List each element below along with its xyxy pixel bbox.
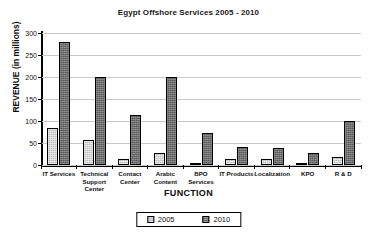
bar [166, 77, 177, 165]
bar [130, 115, 141, 165]
x-tick-text: KPO [301, 170, 314, 177]
legend-item[interactable]: 2010 [203, 215, 231, 224]
bar-groups [41, 33, 361, 165]
bar-group [290, 33, 326, 165]
x-tick-text: Contact Center [118, 170, 141, 185]
x-tick-mark [325, 165, 326, 169]
legend-item[interactable]: 2005 [147, 215, 175, 224]
x-tick-text: R & D [335, 170, 352, 177]
legend-label: 2010 [214, 215, 231, 224]
bar [154, 153, 165, 165]
x-tick-mark [361, 165, 362, 169]
y-tick-label: 300 [25, 30, 37, 37]
bar [308, 153, 319, 165]
y-tick-label: 0 [33, 162, 37, 169]
legend-swatch-icon [147, 216, 154, 223]
x-tick-mark [183, 165, 184, 169]
x-tick-text: Arabic Content [154, 170, 177, 185]
y-tick-label: 50 [29, 140, 37, 147]
legend-swatch-icon [203, 216, 210, 223]
bar-group [148, 33, 184, 165]
chart-title: Egypt Offshore Services 2005 - 2010 [0, 8, 377, 17]
y-tick-label: 200 [25, 74, 37, 81]
bar-group [326, 33, 362, 165]
x-tick-mark [112, 165, 113, 169]
bar-group [254, 33, 290, 165]
x-axis-title: FUNCTION [0, 188, 377, 198]
y-tick-label: 150 [25, 96, 37, 103]
bar-group [183, 33, 219, 165]
x-tick-mark [254, 165, 255, 169]
bar [59, 42, 70, 165]
y-axis-title: REVENUE (in millions) [11, 7, 21, 127]
x-tick-mark [147, 165, 148, 169]
bar [332, 157, 343, 165]
x-tick-text: BPO Services [188, 170, 213, 185]
bar [237, 147, 248, 165]
bar [202, 133, 213, 165]
y-tick-label: 100 [25, 118, 37, 125]
bar-group [41, 33, 77, 165]
bar-chart: Egypt Offshore Services 2005 - 2010 REVE… [0, 0, 377, 243]
x-tick-text: Localization [254, 170, 290, 177]
x-tick-mark [289, 165, 290, 169]
bar-group [77, 33, 113, 165]
bar [47, 128, 58, 165]
bar [83, 140, 94, 165]
plot-area: 050100150200250300 [41, 33, 361, 165]
bar [273, 148, 284, 165]
bar [95, 77, 106, 165]
legend: 20052010 [136, 212, 241, 227]
x-tick-mark [76, 165, 77, 169]
x-tick-mark [218, 165, 219, 169]
bar [344, 121, 355, 165]
x-tick-text: IT Products [219, 170, 253, 177]
bar-group [219, 33, 255, 165]
legend-label: 2005 [158, 215, 175, 224]
x-tick-text: IT Services [42, 170, 75, 177]
bar-group [112, 33, 148, 165]
y-tick-label: 250 [25, 52, 37, 59]
x-tick-mark [41, 165, 42, 169]
